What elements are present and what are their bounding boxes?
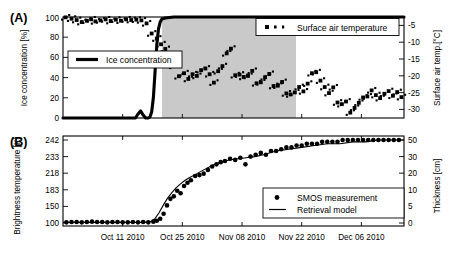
panel-a-right-axis-title: Surface air temp.[°C] [433,30,442,106]
panel-b-y2tick-0: 0 [408,219,413,228]
panel-b-legend[interactable]: SMOS measurement Retrieval model [263,188,404,218]
panel-b-y2tick-1: 5 [408,202,413,211]
panel-a-y2tick-0: -5 [408,21,416,30]
panel-b: (B) Brightness temperature [K] Thickness… [10,114,442,242]
panel-a-y2tick-4: -25 [408,89,420,98]
figure-container: (A) Ice concentration [%] Surface air te… [0,0,451,260]
panel-b-y2tick-3: 20 [408,169,418,178]
panel-a-ytick-2: 40 [50,74,60,83]
dotted-square-marker [265,25,269,29]
panel-a-legend-temperature[interactable]: Surface air temperature [256,19,399,36]
dotted-square-marker [282,26,284,29]
panel-a-y2tick-1: -10 [408,38,420,47]
panel-a-left-ticks: 0 20 40 60 80 100 [45,14,68,124]
panel-b-y2tick-2: 10 [408,186,418,195]
x-tick-label-4: Dec 06 2010 [338,233,385,242]
x-tick-label-2: Nov 08 2010 [219,233,266,242]
panel-b-ytick-1: 150 [45,202,59,211]
panel-b-right-axis-title: Thickness [cm] [433,159,442,214]
panel-b-y2tick-4: 30 [408,153,418,162]
x-tick-label-3: Nov 22 2010 [278,233,325,242]
panel-a-ytick-0: 0 [54,114,59,123]
panel-b-ytick-2: 183 [45,186,59,195]
panel-a-legend-temperature-label: Surface air temperature [297,23,387,33]
panel-a-y2tick-2: -15 [408,55,420,64]
panel-a-ytick-5: 100 [45,14,59,23]
panel-b-ytick-5: 242 [45,136,59,145]
panel-b-legend-smos-label: SMOS measurement [297,193,378,203]
dot-marker [275,195,280,200]
panel-a-ytick-1: 20 [50,94,60,103]
panel-b-legend-model-label: Retrieval model [297,205,357,215]
panel-a-legend-ice-label: Ice concentration [106,55,172,65]
figure-svg: (A) Ice concentration [%] Surface air te… [0,0,451,260]
panel-b-ytick-0: 100 [45,219,59,228]
panel-b-y2tick-5: 50 [408,136,418,145]
dotted-square-marker [274,26,277,29]
panel-a-legend-ice[interactable]: Ice concentration [68,51,182,68]
panel-a-right-ticks: -5 -10 -15 -20 -25 -30 [399,21,420,114]
x-tick-label-0: Oct 11 2010 [101,233,145,242]
panel-b-left-axis-title: Brightness temperature [K] [13,137,22,234]
panel-b-ytick-4: 233 [45,153,59,162]
panel-a: (A) Ice concentration [%] Surface air te… [10,11,442,123]
panel-b-ytick-3: 218 [45,169,59,178]
panel-a-y2tick-5: -30 [408,105,420,114]
panel-b-left-ticks: 100150183218233242 [45,136,68,228]
panel-a-y2tick-3: -20 [408,72,420,81]
panel-a-letter: (A) [10,11,27,25]
panel-a-ytick-3: 60 [50,53,60,62]
panel-a-ytick-4: 80 [50,33,60,42]
x-tick-label-1: Oct 25 2010 [160,233,205,242]
panel-a-left-axis-title: Ice concentration [%] [20,30,29,106]
